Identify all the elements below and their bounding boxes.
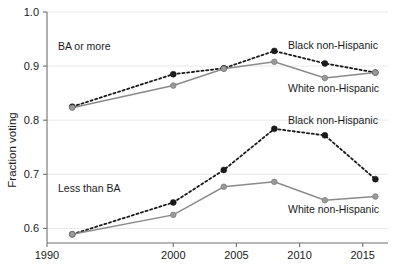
data-point-marker bbox=[322, 60, 328, 66]
y-tick-label: 0.6 bbox=[24, 222, 39, 234]
data-point-marker bbox=[170, 212, 176, 218]
data-point-marker bbox=[170, 199, 176, 205]
data-point-marker bbox=[272, 179, 278, 185]
data-point-marker bbox=[69, 105, 75, 111]
x-tick-label: 2010 bbox=[287, 249, 311, 261]
annotation-ba-white-label: White non-Hispanic bbox=[288, 82, 379, 94]
x-axis-tick-labels: 19902000200520102015 bbox=[35, 249, 375, 261]
annotation-ba-group-label: BA or more bbox=[58, 40, 111, 52]
x-tick-label: 2015 bbox=[350, 249, 374, 261]
data-point-marker bbox=[272, 59, 278, 65]
y-axis-tick-labels: 0.60.70.80.91.0 bbox=[24, 6, 39, 234]
x-tick-label: 2000 bbox=[161, 249, 185, 261]
data-point-marker bbox=[372, 176, 378, 182]
annotation-lessba-black-label: Black non-Hispanic bbox=[288, 114, 378, 126]
annotation-lessba-white-label: White non-Hispanic bbox=[288, 203, 379, 215]
data-point-marker bbox=[373, 70, 379, 76]
y-tick-label: 0.8 bbox=[24, 114, 39, 126]
annotation-lessba-group-label: Less than BA bbox=[58, 182, 120, 194]
y-tick-label: 1.0 bbox=[24, 6, 39, 18]
data-point-marker bbox=[322, 132, 328, 138]
y-axis-label: Fraction voting bbox=[6, 112, 18, 187]
data-point-marker bbox=[373, 194, 379, 200]
y-tick-label: 0.9 bbox=[24, 60, 39, 72]
x-tick-label: 1990 bbox=[35, 249, 59, 261]
data-point-marker bbox=[271, 48, 277, 54]
line-chart: 19902000200520102015 0.60.70.80.91.0 BA … bbox=[0, 0, 394, 270]
y-tick-label: 0.7 bbox=[24, 168, 39, 180]
y-axis-title: Fraction voting bbox=[6, 112, 18, 187]
chart-container: 19902000200520102015 0.60.70.80.91.0 BA … bbox=[0, 0, 394, 270]
data-point-marker bbox=[221, 66, 227, 72]
data-point-marker bbox=[221, 167, 227, 173]
data-point-marker bbox=[221, 184, 227, 190]
data-point-marker bbox=[322, 75, 328, 81]
annotation-ba-black-label: Black non-Hispanic bbox=[288, 39, 378, 51]
data-point-marker bbox=[170, 71, 176, 77]
x-tick-label: 2005 bbox=[224, 249, 248, 261]
data-point-marker bbox=[271, 126, 277, 132]
data-point-marker bbox=[170, 83, 176, 89]
data-point-marker bbox=[69, 232, 75, 238]
